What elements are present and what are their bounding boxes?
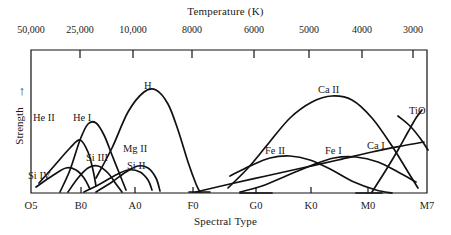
bottom-tick-label: G0 (236, 200, 276, 211)
top-tick-label: 6000 (224, 24, 284, 35)
top-tick-label: 10,000 (103, 24, 163, 35)
series-label-he-ii: He II (33, 112, 55, 123)
series-label-tio: TiO (409, 105, 426, 116)
bottom-tick-label: B0 (61, 200, 101, 211)
series-label-fe-ii: Fe II (265, 145, 285, 156)
series-label-ca-ii: Ca II (318, 84, 339, 95)
series-label-si-iv: Si IV (28, 170, 50, 181)
series-label-fe-i: Fe I (325, 145, 342, 156)
curve-ca-ii (228, 96, 418, 188)
bottom-tick-label: F0 (173, 200, 213, 211)
spectral-line-strength-chart: Temperature (K) Spectral Type ↑ Strength… (0, 0, 451, 235)
series-label-si-ii: Si II (127, 160, 145, 171)
bottom-tick-label: A0 (115, 200, 155, 211)
top-tick-label: 3000 (383, 24, 443, 35)
series-label-ca-i: Ca I (367, 140, 385, 151)
bottom-tick-label: M7 (407, 200, 447, 211)
axis-ticks (80, 50, 413, 193)
series-label-h: H (144, 80, 152, 91)
curve-tio-branch (398, 116, 428, 150)
top-tick-label: 8000 (162, 24, 222, 35)
top-tick-label: 5000 (279, 24, 339, 35)
top-tick-label: 25,000 (50, 24, 110, 35)
bottom-tick-label: O5 (11, 200, 51, 211)
series-label-mg-ii: Mg II (123, 143, 147, 154)
series-label-si-iii: Si III (86, 152, 108, 163)
bottom-tick-label: K0 (291, 200, 331, 211)
bottom-tick-label: M0 (348, 200, 388, 211)
series-label-he-i: He I (73, 112, 91, 123)
